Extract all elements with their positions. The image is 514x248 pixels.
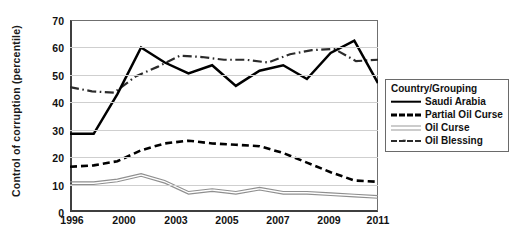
- plot-area: [70, 20, 378, 212]
- y-tick-30: 30: [34, 126, 64, 137]
- legend-item-saudi-arabia[interactable]: Saudi Arabia: [391, 95, 504, 108]
- gridline-50: [70, 75, 378, 76]
- legend-label-saudi-arabia: Saudi Arabia: [425, 96, 486, 107]
- legend-item-oil-blessing[interactable]: Oil Blessing: [391, 134, 504, 147]
- legend-item-oil-curse[interactable]: Oil Curse: [391, 121, 504, 134]
- gridline-30: [70, 130, 378, 131]
- x-tick-2000: 2000: [112, 215, 135, 226]
- y-axis-title: Control of corruption (percentile): [10, 1, 22, 221]
- x-tick-1996: 1996: [60, 215, 83, 226]
- y-tick-60: 60: [34, 43, 64, 54]
- series-line-partial-oil-curse: [70, 141, 378, 182]
- x-tick-2003: 2003: [164, 215, 187, 226]
- legend-swatch-dashed-icon: [391, 109, 421, 120]
- y-tick-10: 10: [34, 181, 64, 192]
- x-tick-2007: 2007: [266, 215, 289, 226]
- gridline-20: [70, 157, 378, 158]
- legend-label-partial-oil-curse: Partial Oil Curse: [425, 109, 503, 120]
- gridline-10: [70, 185, 378, 186]
- legend-swatch-solid-icon: [391, 96, 421, 107]
- y-tick-70: 70: [34, 16, 64, 27]
- chart-legend: Country/Grouping Saudi Arabia Partial Oi…: [385, 79, 509, 152]
- x-tick-2009: 2009: [317, 215, 340, 226]
- legend-label-oil-curse: Oil Curse: [425, 122, 469, 133]
- x-tick-2005: 2005: [215, 215, 238, 226]
- gridline-40: [70, 102, 378, 103]
- series-line-oil-blessing: [70, 49, 378, 93]
- gridline-60: [70, 47, 378, 48]
- line-chart: Control of corruption (percentile) 70 60…: [0, 0, 514, 248]
- x-tick-2011: 2011: [367, 215, 390, 226]
- legend-swatch-double-line-icon: [391, 122, 421, 133]
- legend-swatch-dash-dot-icon: [391, 135, 421, 146]
- y-tick-20: 20: [34, 153, 64, 164]
- legend-label-oil-blessing: Oil Blessing: [425, 135, 483, 146]
- legend-title: Country/Grouping: [391, 83, 504, 94]
- series-lines: [70, 20, 378, 212]
- y-tick-50: 50: [34, 71, 64, 82]
- legend-item-partial-oil-curse[interactable]: Partial Oil Curse: [391, 108, 504, 121]
- y-tick-40: 40: [34, 98, 64, 109]
- series-line-saudi-arabia: [70, 41, 378, 134]
